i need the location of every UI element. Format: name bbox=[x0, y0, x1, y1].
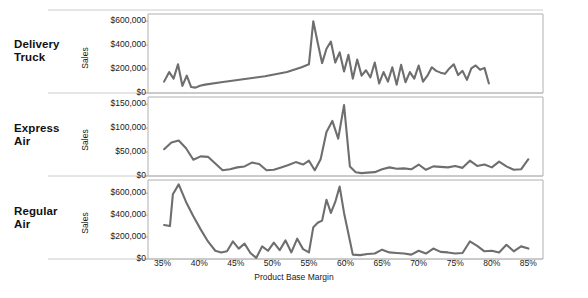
small-multiples-chart: Delivery Truck Express Air Regular Air S… bbox=[0, 0, 588, 298]
x-tick-label: 45% bbox=[218, 258, 254, 268]
y-tick-label-text: $150,000 bbox=[82, 98, 146, 108]
y-tick-label: $200,000 bbox=[82, 231, 146, 241]
x-tick-label: 40% bbox=[181, 258, 217, 268]
y-tick-label: $0 bbox=[82, 170, 146, 180]
y-tick-label: $150,000 bbox=[82, 98, 146, 108]
panel-label-delivery-truck: Delivery Truck bbox=[14, 38, 60, 64]
x-tick-label: 85% bbox=[510, 258, 546, 268]
y-tick-label: $100,000 bbox=[82, 122, 146, 132]
y-tick-label-text: $600,000 bbox=[82, 15, 146, 25]
series-line-regular-air bbox=[164, 184, 528, 258]
y-tick-label-text: $0 bbox=[82, 87, 146, 97]
x-tick-label: 60% bbox=[328, 258, 364, 268]
y-tick-label: $600,000 bbox=[82, 15, 146, 25]
y-tick-label: $0 bbox=[82, 87, 146, 97]
x-tick-label: 55% bbox=[291, 258, 327, 268]
x-tick-label: 70% bbox=[401, 258, 437, 268]
y-tick-label-text: $400,000 bbox=[82, 39, 146, 49]
y-tick-label-text: $0 bbox=[82, 253, 146, 263]
y-tick-label: $0 bbox=[82, 253, 146, 263]
x-tick-label: 65% bbox=[364, 258, 400, 268]
y-tick-label-text: $600,000 bbox=[82, 187, 146, 197]
y-tick-label-text: $200,000 bbox=[82, 231, 146, 241]
y-tick-label-text: $400,000 bbox=[82, 209, 146, 219]
y-tick-label-text: $0 bbox=[82, 170, 146, 180]
series-line-delivery-truck bbox=[164, 21, 489, 87]
x-tick-label: 35% bbox=[145, 258, 181, 268]
y-tick-label: $50,000 bbox=[82, 146, 146, 156]
x-tick-label: 75% bbox=[437, 258, 473, 268]
series-line-express-air bbox=[164, 105, 528, 173]
y-tick-label-text: $50,000 bbox=[82, 146, 146, 156]
panel-label-regular-air: Regular Air bbox=[14, 205, 58, 231]
y-tick-label: $400,000 bbox=[82, 39, 146, 49]
y-tick-label: $200,000 bbox=[82, 63, 146, 73]
y-tick-label-text: $200,000 bbox=[82, 63, 146, 73]
y-tick-label: $600,000 bbox=[82, 187, 146, 197]
x-tick-label: 80% bbox=[474, 258, 510, 268]
y-tick-label-text: $100,000 bbox=[82, 122, 146, 132]
x-tick-label: 50% bbox=[254, 258, 290, 268]
x-axis-title: Product Base Margin bbox=[0, 272, 588, 282]
y-tick-label: $400,000 bbox=[82, 209, 146, 219]
panel-label-express-air: Express Air bbox=[14, 122, 59, 148]
